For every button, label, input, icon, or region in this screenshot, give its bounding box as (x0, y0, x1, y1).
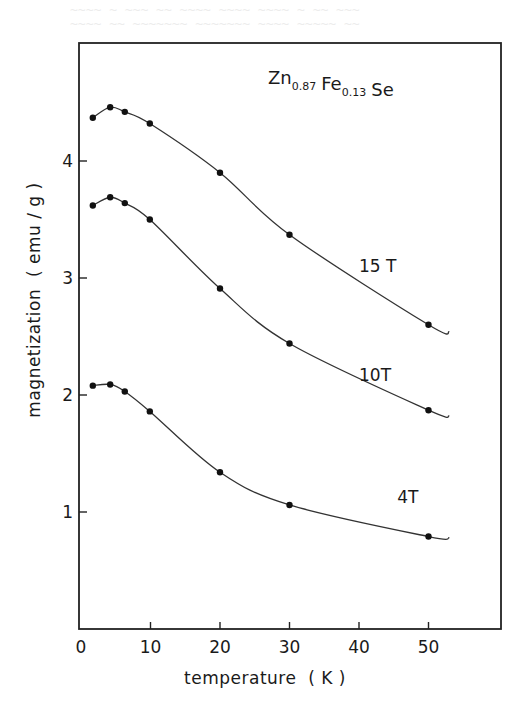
data-point-15t (107, 104, 113, 110)
title-element: Se (371, 79, 394, 100)
series-curves (93, 107, 450, 539)
data-point-4t (217, 469, 223, 475)
bleed-through-text: ~~~~ ~ ~~~ ~~ ~~~~ ~~~~ ~~~~ ~ ~~ ~~~ ~~… (70, 2, 360, 31)
data-point-15t (90, 115, 96, 121)
data-point-10t (425, 407, 431, 413)
y-axis-ticks: 1234 (62, 151, 87, 522)
title-subscript: 0.87 (292, 80, 317, 93)
x-tick-label: 50 (418, 637, 440, 657)
x-axis-ticks: 01020304050 (76, 622, 440, 657)
series-points (90, 104, 432, 540)
data-point-4t (107, 381, 113, 387)
title-element: Fe (321, 73, 341, 94)
x-tick-label: 30 (279, 637, 301, 657)
magnetization-chart: ~~~~ ~ ~~~ ~~ ~~~~ ~~~~ ~~~~ ~ ~~ ~~~ ~~… (0, 0, 532, 712)
plot-frame (79, 43, 501, 629)
y-axis-title: magnetization ( emu / g ) (24, 182, 44, 417)
series-line-10t (93, 197, 450, 417)
data-point-10t (122, 200, 128, 206)
data-point-10t (217, 285, 223, 291)
data-point-15t (217, 170, 223, 176)
x-tick-label: 0 (76, 637, 87, 657)
series-labels: 15 T10T4T (359, 256, 419, 506)
y-tick-label: 1 (62, 502, 73, 522)
data-point-10t (147, 216, 153, 222)
svg-text:~~~~ ~ ~~~ ~~ ~~~~ ~~~~ ~~~~ ~: ~~~~ ~ ~~~ ~~ ~~~~ ~~~~ ~~~~ ~ ~~ ~~~ (70, 2, 360, 17)
data-point-10t (286, 340, 292, 346)
y-tick-label: 2 (62, 385, 73, 405)
x-axis-title: temperature ( K ) (184, 668, 346, 688)
x-tick-label: 20 (209, 637, 231, 657)
data-point-4t (425, 533, 431, 539)
x-tick-label: 40 (348, 637, 370, 657)
data-point-10t (107, 194, 113, 200)
data-point-4t (122, 388, 128, 394)
svg-text:~~~~ ~~ ~~~~~~~ ~~~~~~~ ~~~~ ~: ~~~~ ~~ ~~~~~~~ ~~~~~~~ ~~~~ ~~~~~ ~~ (70, 16, 360, 31)
y-tick-label: 3 (62, 268, 73, 288)
title-element: Zn (268, 67, 292, 88)
data-point-15t (122, 109, 128, 115)
y-tick-label: 4 (62, 151, 73, 171)
data-point-10t (90, 202, 96, 208)
data-point-4t (286, 502, 292, 508)
data-point-4t (90, 382, 96, 388)
data-point-15t (286, 232, 292, 238)
data-point-15t (425, 322, 431, 328)
chart-title: Zn0.87Fe0.13Se (268, 67, 394, 100)
series-line-4t (93, 384, 450, 539)
title-subscript: 0.13 (342, 86, 367, 99)
series-label-4t: 4T (397, 487, 419, 507)
data-point-15t (147, 120, 153, 126)
data-point-4t (147, 408, 153, 414)
series-line-15t (93, 107, 450, 334)
series-label-15t: 15 T (359, 256, 397, 276)
x-tick-label: 10 (140, 637, 162, 657)
series-label-10t: 10T (359, 365, 392, 385)
